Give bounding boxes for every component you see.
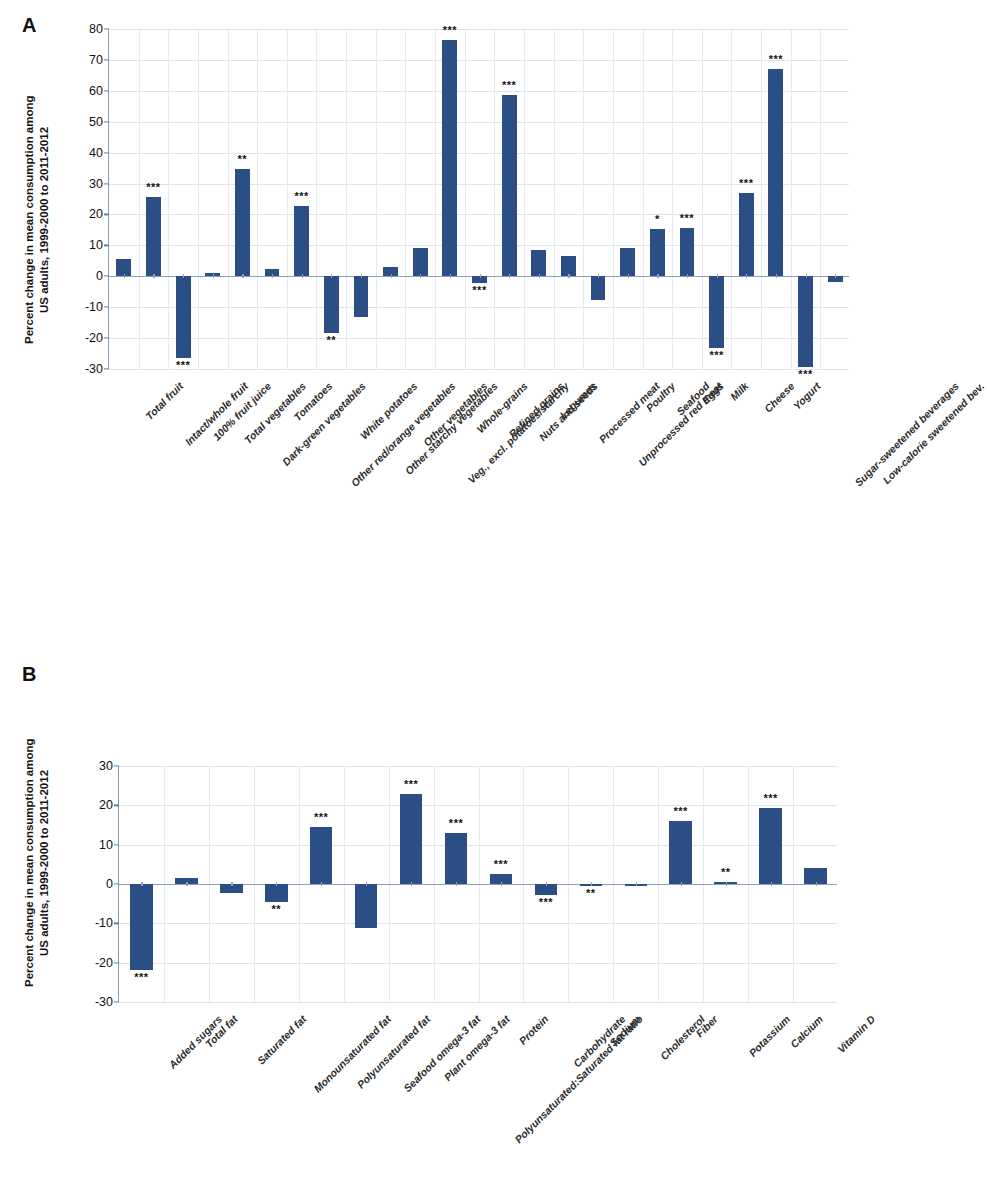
x-axis-tick bbox=[835, 274, 836, 278]
significance-marker: *** bbox=[763, 794, 777, 802]
vertical-gridline bbox=[316, 29, 317, 369]
significance-marker: *** bbox=[798, 370, 812, 378]
x-axis-tick bbox=[816, 882, 817, 886]
vertical-gridline bbox=[168, 29, 169, 369]
significance-marker: *** bbox=[472, 286, 486, 294]
bar bbox=[531, 250, 546, 276]
significance-marker: ** bbox=[586, 889, 596, 897]
x-axis-tick bbox=[331, 274, 332, 278]
y-axis-tick-label: 30 bbox=[89, 177, 103, 191]
x-axis-tick bbox=[509, 274, 510, 278]
bar bbox=[739, 193, 754, 276]
significance-marker: *** bbox=[134, 973, 148, 981]
y-axis-tick-label: 0 bbox=[96, 269, 103, 283]
y-axis-tick-label: -10 bbox=[85, 300, 103, 314]
x-axis-tick bbox=[411, 882, 412, 886]
bar bbox=[798, 276, 813, 367]
significance-marker: *** bbox=[314, 813, 328, 821]
vertical-gridline bbox=[672, 29, 673, 369]
y-axis-tick bbox=[114, 923, 119, 924]
significance-marker: ** bbox=[238, 155, 248, 163]
x-axis-tick bbox=[746, 274, 747, 278]
x-axis-tick bbox=[776, 274, 777, 278]
bar bbox=[176, 276, 191, 357]
panel-b-y-axis-label: Percent change in mean consumption among… bbox=[22, 713, 56, 1013]
y-axis-tick bbox=[104, 214, 109, 215]
bar bbox=[680, 228, 695, 276]
y-axis-tick-label: -10 bbox=[95, 916, 113, 930]
x-axis-tick bbox=[361, 274, 362, 278]
y-axis-tick bbox=[104, 307, 109, 308]
y-axis-tick-label: -30 bbox=[95, 995, 113, 1009]
x-axis-tick bbox=[183, 274, 184, 278]
y-axis-tick-label: 30 bbox=[99, 759, 113, 773]
bar bbox=[413, 248, 428, 276]
bar bbox=[354, 276, 369, 317]
vertical-gridline bbox=[494, 29, 495, 369]
significance-marker: *** bbox=[449, 819, 463, 827]
panel-a: A Percent change in mean consumption amo… bbox=[0, 0, 857, 655]
vertical-gridline bbox=[139, 29, 140, 369]
significance-marker: *** bbox=[176, 361, 190, 369]
x-axis-tick bbox=[186, 882, 187, 886]
bar bbox=[235, 169, 250, 277]
x-axis-tick bbox=[141, 882, 142, 886]
x-axis-tick bbox=[591, 882, 592, 886]
x-axis-tick bbox=[806, 274, 807, 278]
significance-marker: *** bbox=[739, 179, 753, 187]
x-axis-tick bbox=[771, 882, 772, 886]
y-axis-tick-label: -20 bbox=[85, 331, 103, 345]
gridline bbox=[109, 307, 849, 308]
y-axis-tick bbox=[104, 121, 109, 122]
panel-a-y-axis-label: Percent change in mean consumption among… bbox=[22, 70, 56, 370]
y-axis-tick-label: 10 bbox=[99, 838, 113, 852]
y-axis-tick-label: 20 bbox=[99, 798, 113, 812]
y-axis-tick bbox=[114, 805, 119, 806]
x-axis-tick bbox=[231, 882, 232, 886]
y-axis-tick bbox=[114, 962, 119, 963]
x-axis-tick bbox=[302, 274, 303, 278]
vertical-gridline bbox=[465, 29, 466, 369]
x-axis-tick bbox=[628, 274, 629, 278]
x-axis-tick bbox=[726, 882, 727, 886]
vertical-gridline bbox=[346, 29, 347, 369]
vertical-gridline bbox=[524, 29, 525, 369]
gridline bbox=[109, 60, 849, 61]
x-axis-category-label: Cheese bbox=[762, 380, 797, 415]
y-axis-tick-label: 20 bbox=[89, 207, 103, 221]
vertical-gridline bbox=[820, 29, 821, 369]
y-axis-tick-label: 60 bbox=[89, 84, 103, 98]
bar bbox=[324, 276, 339, 332]
x-axis-tick bbox=[598, 274, 599, 278]
vertical-gridline bbox=[257, 29, 258, 369]
gridline bbox=[109, 184, 849, 185]
significance-marker: *** bbox=[769, 55, 783, 63]
y-axis-tick-label: 50 bbox=[89, 115, 103, 129]
vertical-gridline bbox=[613, 29, 614, 369]
x-axis-tick bbox=[681, 882, 682, 886]
x-axis-tick bbox=[276, 882, 277, 886]
gridline bbox=[109, 369, 849, 370]
x-axis-tick bbox=[153, 274, 154, 278]
vertical-gridline bbox=[198, 29, 199, 369]
bar bbox=[294, 206, 309, 276]
x-axis-category-label: Vitamin D bbox=[834, 1013, 876, 1055]
significance-marker: *** bbox=[146, 183, 160, 191]
significance-marker: * bbox=[655, 215, 660, 223]
x-axis-category-label: Calcium bbox=[787, 1013, 824, 1050]
x-axis-tick bbox=[636, 882, 637, 886]
x-axis-tick bbox=[568, 274, 569, 278]
bar bbox=[759, 808, 781, 884]
gridline bbox=[109, 29, 849, 30]
significance-marker: *** bbox=[502, 81, 516, 89]
vertical-gridline bbox=[376, 29, 377, 369]
significance-marker: ** bbox=[327, 336, 337, 344]
x-axis-tick bbox=[321, 882, 322, 886]
panel-b-letter: B bbox=[22, 663, 36, 686]
gridline bbox=[109, 91, 849, 92]
y-axis-tick bbox=[114, 765, 119, 766]
bar bbox=[355, 884, 377, 928]
y-axis-tick-label: 0 bbox=[106, 877, 113, 891]
vertical-gridline bbox=[228, 29, 229, 369]
bar bbox=[620, 248, 635, 277]
